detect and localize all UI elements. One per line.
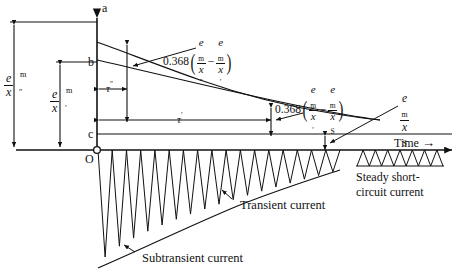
transient-decay-annotation: 0.368( em x′ − em xS ) bbox=[275, 84, 345, 136]
point-c-label: c bbox=[88, 128, 93, 140]
steady-label-line1: Steady short- bbox=[356, 170, 424, 185]
steady-short-circuit-label: Steady short- circuit current bbox=[356, 170, 424, 200]
point-a-label: a bbox=[102, 2, 107, 14]
ann1-term2-prime: ′ bbox=[220, 78, 222, 87]
em-numerator: e bbox=[4, 72, 13, 85]
transient-amplitude-label: e x m ′ bbox=[50, 88, 59, 114]
close-paren-1: ) bbox=[227, 52, 232, 73]
subtransient-amplitude-label: e x m ″ bbox=[4, 72, 13, 98]
short-circuit-decay-figure: a b c O e x m ″ e x m ′ τ″ τ′ 0.368( em … bbox=[0, 0, 462, 279]
point-b-label: b bbox=[88, 56, 94, 68]
origin-label: O bbox=[85, 153, 94, 165]
em-superscript-m: m bbox=[20, 71, 26, 79]
ann1-term2-sub: m bbox=[218, 54, 224, 63]
open-paren-1: ( bbox=[190, 52, 195, 73]
ann2-term1-sub: m bbox=[310, 101, 316, 110]
ann2-term2-subscript: S bbox=[330, 127, 334, 136]
time-text: Time bbox=[394, 136, 419, 150]
coefficient-1: 0.368 bbox=[163, 55, 189, 67]
ann1-term1-prime: ″ bbox=[200, 78, 203, 87]
ann2-term1-num: e bbox=[309, 84, 318, 96]
tau-double-prime-mark: ″ bbox=[110, 80, 113, 89]
x-denominator: x bbox=[4, 85, 13, 99]
ann1-term2-den: x bbox=[216, 63, 225, 76]
x-denominator-2: x bbox=[50, 101, 59, 115]
steady-short-circuit-waveform bbox=[356, 150, 444, 166]
ann1-term2-num: e bbox=[216, 37, 225, 49]
steady-label-line2: circuit current bbox=[356, 185, 424, 200]
open-paren-2: ( bbox=[302, 99, 307, 120]
x-double-prime: ″ bbox=[19, 89, 22, 97]
ann1-term1-sub: m bbox=[198, 54, 204, 63]
em-numerator-2: e bbox=[50, 88, 59, 101]
tau-prime-label: τ′ bbox=[177, 112, 183, 125]
ann2-term1-den: x bbox=[309, 110, 318, 123]
em-numerator-3: e bbox=[400, 92, 409, 104]
ann2-term2-sub: m bbox=[330, 101, 336, 110]
close-paren-2: ) bbox=[339, 99, 344, 120]
x-denominator-3: x bbox=[400, 120, 409, 133]
ann2-operator: − bbox=[318, 103, 329, 115]
ann1-term1-num: e bbox=[197, 37, 206, 49]
em-subscript-m-3: m bbox=[402, 110, 408, 119]
tau-prime-mark: ′ bbox=[181, 111, 183, 120]
subtransient-decay-annotation: 0.368( em x″ − em x′ ) bbox=[163, 37, 233, 88]
coefficient-2: 0.368 bbox=[275, 103, 301, 115]
subtransient-current-label: Subtransient current bbox=[142, 252, 243, 265]
x-prime: ′ bbox=[65, 105, 67, 113]
subtransient-label-leader bbox=[124, 245, 135, 252]
transient-label-leader bbox=[222, 190, 232, 199]
transient-current-label: Transient current bbox=[240, 199, 325, 212]
time-arrow-icon: → bbox=[422, 135, 435, 150]
ann1-operator: − bbox=[206, 55, 217, 67]
ann2-term2-den: x bbox=[328, 110, 337, 123]
tau-double-prime-label: τ″ bbox=[106, 81, 113, 94]
em-superscript-m-2: m bbox=[66, 87, 72, 95]
ann2-term2-num: e bbox=[328, 84, 337, 96]
ann1-term1-den: x bbox=[197, 63, 206, 76]
ann2-term1-prime: ′ bbox=[312, 126, 314, 135]
time-axis-label: Time → bbox=[394, 136, 435, 149]
origin-marker bbox=[94, 147, 101, 154]
